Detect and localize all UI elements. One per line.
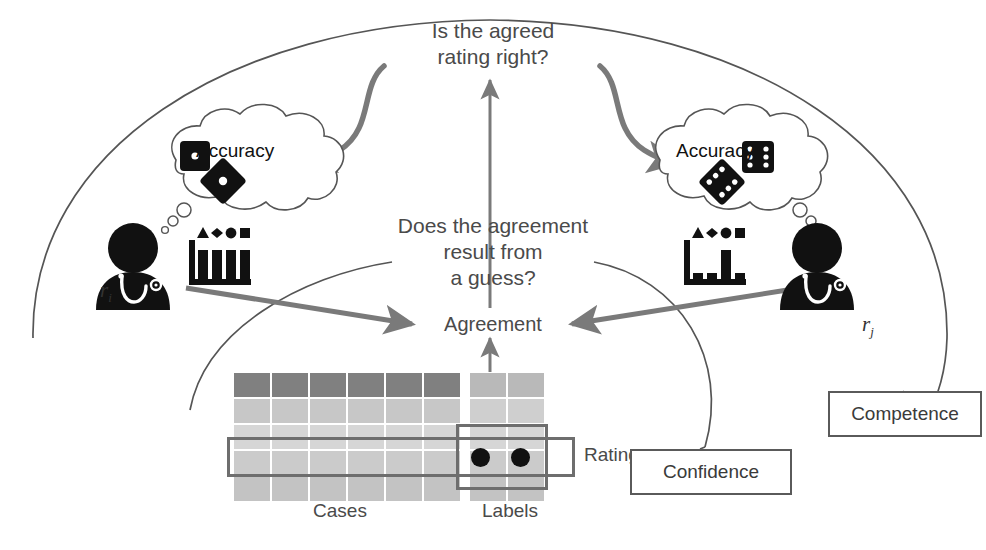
accuracy-label-right: Accuracy [676,140,754,162]
table-row [233,372,545,398]
rater-j-label: rj [862,312,874,340]
competence-box[interactable]: Competence [828,391,982,437]
accuracy-label-left: Accuracy [196,140,274,162]
table-cell [347,372,385,398]
table-cell [507,372,545,398]
table-cell [385,372,423,398]
diagram-canvas: Is the agreed rating right? Does the agr… [0,0,986,550]
cases-label: Cases [280,500,400,522]
thought-cloud-right [656,104,828,233]
top-question: Is the agreed rating right? [398,18,588,70]
competence-box-label: Competence [851,403,959,425]
table-gap [461,398,469,424]
table-cell [271,372,309,398]
top-question-line1: Is the agreed [398,18,588,44]
middle-question: Does the agreement result from a guess? [366,213,620,291]
table-cell [309,476,347,502]
table-cell [385,398,423,424]
table-cell [233,398,271,424]
rating-dot [511,448,530,467]
confidence-box-label: Confidence [663,461,759,483]
table-cell [233,476,271,502]
table-cell [347,476,385,502]
table-cell [423,372,461,398]
table-cell [233,372,271,398]
table-row [233,398,545,424]
table-cell [423,398,461,424]
table-cell [271,476,309,502]
table-cell [347,398,385,424]
middle-question-line1: Does the agreement [366,213,620,239]
top-question-line2: rating right? [398,44,588,70]
bar-chart-left-icon [189,227,251,285]
labels-label: Labels [460,500,560,522]
agreement-label: Agreement [420,313,566,336]
table-cell [309,372,347,398]
arrow-left-rater-to-agreement [186,288,412,324]
table-cell [271,398,309,424]
middle-question-line3: a guess? [366,265,620,291]
table-cell [309,398,347,424]
table-cell [385,476,423,502]
doctor-right-icon [780,223,854,310]
rating-dot [471,448,490,467]
rater-i-label: ri [100,278,112,306]
table-gap [461,372,469,398]
confidence-box[interactable]: Confidence [630,449,792,495]
table-cell [469,372,507,398]
middle-question-line2: result from [366,239,620,265]
bar-chart-right-icon [684,227,746,285]
table-cell [469,398,507,424]
table-cell [507,398,545,424]
